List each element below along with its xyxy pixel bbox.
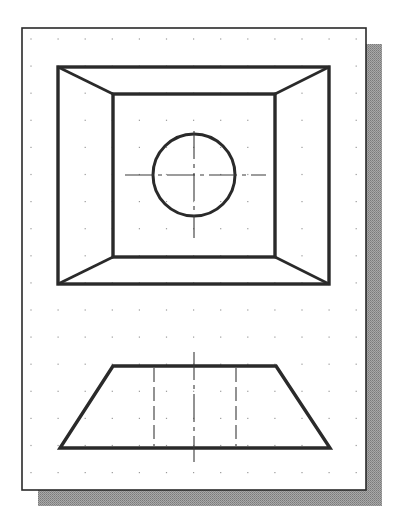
grid-dot bbox=[220, 337, 221, 338]
grid-dot bbox=[356, 418, 357, 419]
grid-dot bbox=[166, 201, 167, 202]
grid-dot bbox=[85, 337, 86, 338]
grid-dot bbox=[193, 472, 194, 473]
grid-dot bbox=[30, 418, 31, 419]
grid-dot bbox=[247, 228, 248, 229]
grid-dot bbox=[30, 391, 31, 392]
grid-dot bbox=[301, 309, 302, 310]
grid-dot bbox=[30, 201, 31, 202]
grid-dot bbox=[139, 445, 140, 446]
grid-dot bbox=[274, 445, 275, 446]
grid-dot bbox=[30, 120, 31, 121]
grid-dot bbox=[58, 472, 59, 473]
grid-dot bbox=[301, 120, 302, 121]
grid-dot bbox=[247, 147, 248, 148]
grid-dot bbox=[85, 201, 86, 202]
grid-dot bbox=[166, 228, 167, 229]
grid-dot bbox=[356, 364, 357, 365]
grid-dot bbox=[30, 309, 31, 310]
grid-dot bbox=[329, 309, 330, 310]
grid-dot bbox=[220, 228, 221, 229]
grid-dot bbox=[301, 201, 302, 202]
grid-dot bbox=[58, 38, 59, 39]
grid-dot bbox=[301, 147, 302, 148]
grid-dot bbox=[85, 391, 86, 392]
grid-dot bbox=[58, 445, 59, 446]
grid-dot bbox=[356, 472, 357, 473]
grid-dot bbox=[58, 337, 59, 338]
grid-dot bbox=[112, 445, 113, 446]
grid-dot bbox=[30, 38, 31, 39]
grid-dot bbox=[301, 174, 302, 175]
grid-dot bbox=[274, 309, 275, 310]
grid-dot bbox=[85, 445, 86, 446]
grid-dot bbox=[112, 391, 113, 392]
grid-dot bbox=[85, 38, 86, 39]
grid-dot bbox=[220, 472, 221, 473]
grid-dot bbox=[356, 391, 357, 392]
grid-dot bbox=[220, 391, 221, 392]
grid-dot bbox=[356, 174, 357, 175]
grid-dot bbox=[112, 337, 113, 338]
grid-dot bbox=[301, 255, 302, 256]
grid-dot bbox=[274, 391, 275, 392]
grid-dot bbox=[139, 228, 140, 229]
grid-dot bbox=[30, 282, 31, 283]
grid-dot bbox=[30, 364, 31, 365]
grid-dot bbox=[220, 201, 221, 202]
grid-dot bbox=[166, 445, 167, 446]
grid-dot bbox=[30, 147, 31, 148]
grid-dot bbox=[220, 120, 221, 121]
grid-dot bbox=[301, 418, 302, 419]
grid-dot bbox=[85, 418, 86, 419]
grid-dot bbox=[301, 337, 302, 338]
grid-dot bbox=[247, 38, 248, 39]
grid-dot bbox=[139, 472, 140, 473]
drawing-canvas bbox=[0, 0, 394, 522]
grid-dot bbox=[112, 309, 113, 310]
grid-dot bbox=[166, 38, 167, 39]
grid-dot bbox=[247, 174, 248, 175]
grid-dot bbox=[356, 255, 357, 256]
grid-dot bbox=[58, 391, 59, 392]
orthographic-drawing bbox=[0, 0, 394, 522]
grid-dot bbox=[193, 120, 194, 121]
grid-dot bbox=[85, 309, 86, 310]
grid-dot bbox=[193, 309, 194, 310]
grid-dot bbox=[166, 337, 167, 338]
grid-dot bbox=[329, 364, 330, 365]
grid-dot bbox=[247, 120, 248, 121]
grid-dot bbox=[30, 255, 31, 256]
grid-dot bbox=[166, 309, 167, 310]
grid-dot bbox=[58, 309, 59, 310]
grid-dot bbox=[220, 38, 221, 39]
grid-dot bbox=[356, 337, 357, 338]
grid-dot bbox=[58, 364, 59, 365]
grid-dot bbox=[301, 228, 302, 229]
grid-dot bbox=[356, 282, 357, 283]
grid-dot bbox=[247, 472, 248, 473]
grid-dot bbox=[85, 147, 86, 148]
grid-dot bbox=[112, 472, 113, 473]
grid-dot bbox=[112, 418, 113, 419]
grid-dot bbox=[329, 391, 330, 392]
grid-dot bbox=[247, 309, 248, 310]
grid-dot bbox=[329, 418, 330, 419]
grid-dot bbox=[220, 418, 221, 419]
grid-dot bbox=[139, 201, 140, 202]
grid-dot bbox=[356, 120, 357, 121]
grid-dot bbox=[85, 255, 86, 256]
grid-dot bbox=[193, 391, 194, 392]
grid-dot bbox=[85, 228, 86, 229]
grid-dot bbox=[356, 445, 357, 446]
grid-dot bbox=[112, 38, 113, 39]
grid-dot bbox=[85, 174, 86, 175]
grid-dot bbox=[139, 418, 140, 419]
grid-dot bbox=[247, 201, 248, 202]
grid-dot bbox=[30, 445, 31, 446]
grid-dot bbox=[58, 418, 59, 419]
grid-dot bbox=[166, 174, 167, 175]
grid-dot bbox=[356, 201, 357, 202]
grid-dot bbox=[301, 391, 302, 392]
grid-dot bbox=[139, 391, 140, 392]
